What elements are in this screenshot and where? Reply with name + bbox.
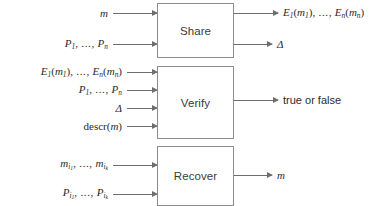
edge-label-verify-output-1: true or false: [278, 95, 341, 106]
edge-label-share-input-2: P1, ..., Pn: [65, 38, 113, 50]
edge-label-verify-input-2: P1, ..., Pn: [79, 84, 127, 96]
edge-recover-output-1: m: [234, 167, 390, 183]
node-share[interactable]: Share: [157, 3, 234, 58]
edge-verify-input-1: E1(m1), ..., En(mn): [0, 64, 157, 80]
edge-verify-input-3: Δ: [0, 100, 157, 116]
edge-recover-input-1: mi1, ..., mik: [0, 157, 157, 173]
edge-label-verify-input-4: descr(m): [84, 121, 128, 132]
edge-label-verify-input-3: Δ: [116, 103, 127, 114]
arrow-right-icon: [127, 72, 157, 73]
edge-verify-input-4: descr(m): [0, 118, 157, 134]
edge-label-recover-output-1: m: [272, 170, 285, 181]
arrow-right-icon: [127, 90, 157, 91]
edge-label-share-output-2: Δ: [272, 39, 283, 50]
edge-verify-input-2: P1, ..., Pn: [0, 82, 157, 98]
arrow-right-icon: [127, 108, 157, 109]
arrow-right-icon: [234, 13, 278, 14]
edge-label-share-input-1: m: [100, 8, 113, 19]
edge-share-input-1: m: [0, 5, 157, 21]
arrow-right-icon: [113, 194, 157, 195]
node-verify-label: Verify: [181, 97, 210, 109]
arrow-right-icon: [113, 165, 157, 166]
node-verify[interactable]: Verify: [157, 66, 234, 139]
arrow-right-icon: [127, 126, 157, 127]
edge-share-output-2: Δ: [234, 36, 390, 52]
edge-share-input-2: P1, ..., Pn: [0, 36, 157, 52]
edge-label-recover-input-1: mi1, ..., mik: [60, 158, 113, 172]
node-recover[interactable]: Recover: [157, 146, 234, 206]
node-share-label: Share: [180, 25, 211, 37]
arrow-right-icon: [234, 100, 278, 101]
flow-diagram: Share m P1, ..., Pn E1(m1), ..., En(mn) …: [0, 0, 390, 206]
arrow-right-icon: [234, 44, 272, 45]
arrow-right-icon: [113, 13, 157, 14]
arrow-right-icon: [113, 44, 157, 45]
node-recover-label: Recover: [174, 170, 218, 182]
edge-label-recover-input-2: Pi1, ..., Pik: [63, 187, 113, 201]
edge-verify-output-1: true or false: [234, 92, 390, 108]
arrow-right-icon: [234, 175, 272, 176]
edge-label-verify-input-1: E1(m1), ..., En(mn): [41, 66, 127, 78]
edge-label-share-output-1: E1(m1), ..., En(mn): [278, 7, 364, 19]
edge-recover-input-2: Pi1, ..., Pik: [0, 186, 157, 202]
edge-share-output-1: E1(m1), ..., En(mn): [234, 5, 390, 21]
